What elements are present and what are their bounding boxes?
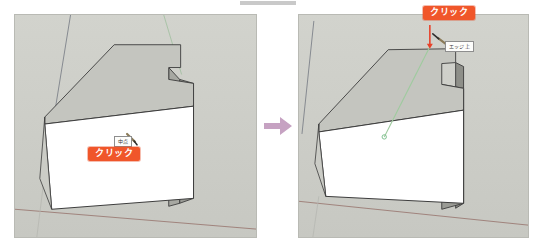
- scene-after: [299, 15, 528, 237]
- figure-root: 中点 クリック エッジ上 クリック: [0, 0, 543, 252]
- viewport-after[interactable]: [298, 14, 529, 238]
- right-arrow-icon: [262, 110, 294, 142]
- shape-front-face: [45, 106, 194, 209]
- top-divider-bar: [240, 1, 296, 5]
- scene-before: [15, 15, 256, 237]
- viewport-before[interactable]: [14, 14, 257, 238]
